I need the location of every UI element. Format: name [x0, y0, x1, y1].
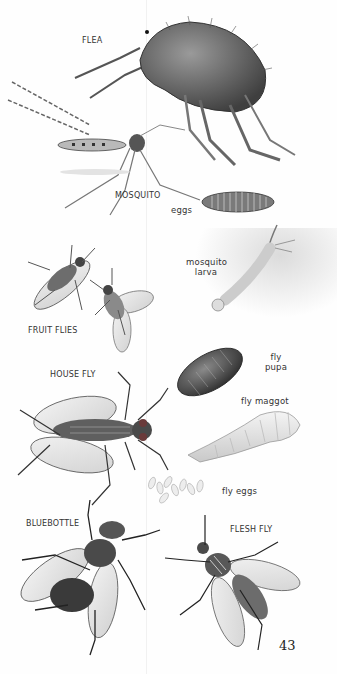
flesh-fly-illustration — [165, 515, 303, 650]
egg-raft-illustration — [202, 192, 274, 212]
fly-pupa-label-line2: pupa — [263, 362, 289, 372]
flesh-fly-label: FLESH FLY — [230, 525, 272, 535]
maggot-illustration — [188, 412, 300, 462]
fly-eggs-label: fly eggs — [222, 486, 257, 496]
mosquito-larva-label: mosquito larva — [186, 257, 226, 277]
fly-pupa-label-line1: fly — [263, 352, 289, 362]
mosquito-larva-label-line1: mosquito — [186, 257, 226, 267]
mosquito-label: MOSQUITO — [115, 191, 161, 201]
flea-label: FLEA — [82, 36, 102, 46]
eggs-illustration — [147, 475, 204, 504]
mosquito-larva-label-line2: larva — [186, 267, 226, 277]
mosquito-illustration — [8, 82, 200, 215]
fly-pupa-label: fly pupa — [263, 352, 289, 372]
illustrations-layer — [0, 0, 337, 674]
pupa-illustration — [170, 338, 250, 405]
page-number: 43 — [279, 638, 296, 653]
house-fly-illustration — [18, 372, 168, 505]
fruit-flies-label: FRUIT FLIES — [28, 326, 78, 336]
mosquito-eggs-label: eggs — [171, 205, 192, 215]
bluebottle-label: BLUEBOTTLE — [26, 519, 79, 529]
book-page: FLEA MOSQUITO eggs mosquito larva FRUIT … — [0, 0, 337, 674]
fly-maggot-label: fly maggot — [241, 396, 289, 406]
house-fly-label: HOUSE FLY — [50, 370, 96, 380]
